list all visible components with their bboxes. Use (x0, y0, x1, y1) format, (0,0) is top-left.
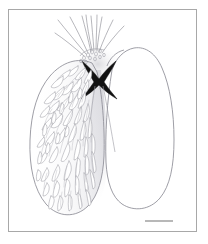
figure-container (0, 0, 208, 244)
right-lobe (106, 48, 174, 209)
specimen-illustration (0, 0, 208, 244)
